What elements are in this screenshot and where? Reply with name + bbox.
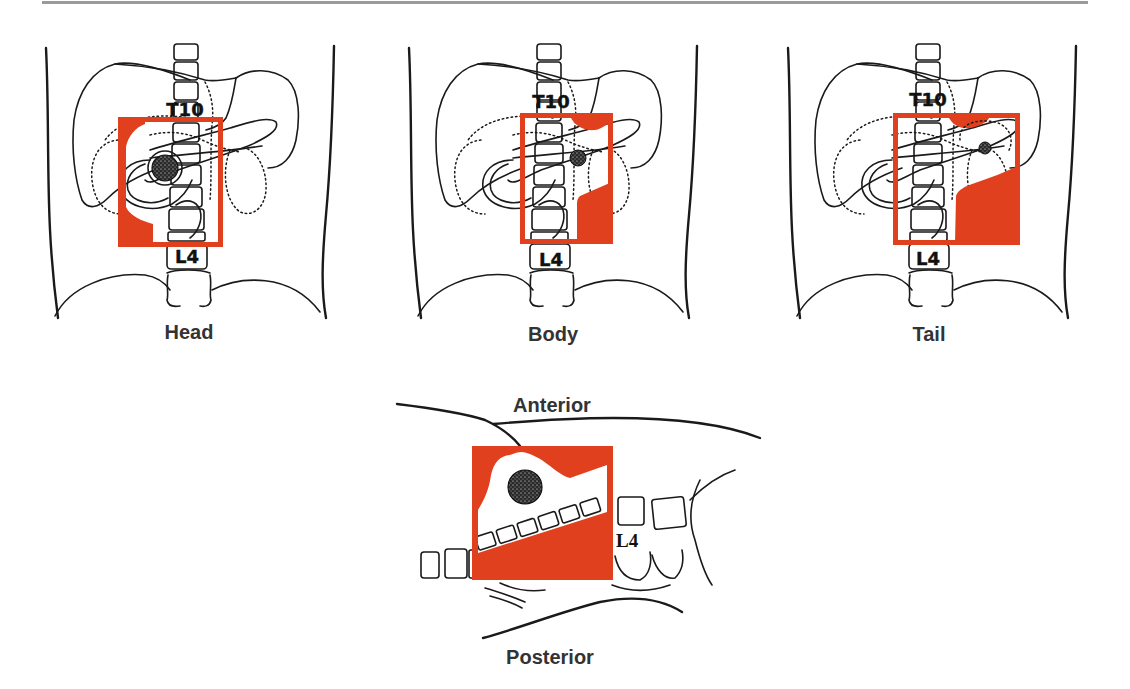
landmark-l4: L4 xyxy=(916,248,940,269)
landmark-t10: T10 xyxy=(166,99,203,120)
panel-label-tail: Tail xyxy=(913,323,946,345)
posterior-skin-line xyxy=(483,599,682,638)
panel-body: T10 L4 Body xyxy=(409,44,697,345)
torso-drawing xyxy=(46,44,334,318)
panel-label-head: Head xyxy=(165,321,214,343)
landmark-t10: T10 xyxy=(532,91,569,112)
pancreas-radiation-field-diagram: T10 L4 Head T10 L4 Body T10 L4 Tail xyxy=(0,0,1130,689)
lumbar-vertebrae-right xyxy=(615,470,735,585)
torso-drawing xyxy=(409,44,697,318)
panel-lateral: Anterior Posterior L4 xyxy=(397,394,760,668)
panel-head: T10 L4 Head xyxy=(46,44,334,343)
posterior-soft-tissue-lines xyxy=(485,583,670,608)
landmark-t10: T10 xyxy=(909,89,946,110)
radiation-field-tail xyxy=(896,116,1019,244)
tumor-icon xyxy=(508,470,542,504)
tumor-icon xyxy=(570,150,586,166)
anterior-skin-line xyxy=(493,418,760,438)
tumor-icon xyxy=(152,155,178,181)
radiation-field-lateral xyxy=(472,446,613,580)
landmark-l4: L4 xyxy=(539,249,563,270)
panel-tail: T10 L4 Tail xyxy=(788,44,1076,345)
label-anterior: Anterior xyxy=(513,394,591,416)
lumbar-vertebrae-left xyxy=(421,549,475,578)
anterior-wall-line xyxy=(397,404,520,446)
landmark-l4: L4 xyxy=(175,246,199,267)
panel-label-body: Body xyxy=(528,323,579,345)
field-block-bottom-right xyxy=(577,182,612,244)
field-block-bottom-right xyxy=(955,166,1018,243)
label-posterior: Posterior xyxy=(506,646,594,668)
torso-drawing xyxy=(788,44,1076,318)
landmark-l4: L4 xyxy=(616,530,639,551)
tumor-icon xyxy=(979,142,991,154)
